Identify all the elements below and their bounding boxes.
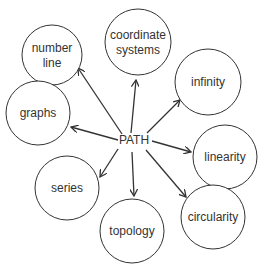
node-topology: topology	[100, 199, 164, 263]
arrow-to-series	[100, 149, 118, 177]
node-label: infinity	[191, 75, 225, 89]
node-label: linearity	[204, 150, 245, 164]
node-label: series	[51, 181, 83, 195]
arrow-to-number-line	[78, 68, 122, 134]
center-node-path: PATH	[119, 133, 149, 147]
node-label: line	[43, 56, 62, 70]
node-coordinate-systems: coordinatesystems	[105, 9, 171, 75]
node-linearity: linearity	[193, 125, 257, 189]
concept-diagram: numberlinecoordinatesystemsinfinitygraph…	[0, 0, 261, 272]
node-infinity: infinity	[175, 49, 241, 115]
arrow-to-circularity	[146, 150, 186, 197]
arrow-to-topology	[132, 152, 134, 196]
node-label: topology	[109, 224, 154, 238]
node-label: number	[32, 41, 73, 55]
node-label: graphs	[20, 106, 57, 120]
arrow-to-coordinate-systems	[131, 80, 136, 133]
node-label: coordinate	[110, 28, 166, 42]
node-series: series	[35, 156, 99, 220]
node-label: circularity	[188, 210, 239, 224]
node-graphs: graphs	[6, 81, 70, 145]
arrow-to-linearity	[152, 141, 191, 152]
arrow-to-graphs	[71, 127, 118, 140]
node-number-line: numberline	[22, 25, 82, 85]
arrow-to-infinity	[147, 100, 180, 133]
node-circularity: circularity	[181, 185, 245, 249]
node-label: systems	[116, 43, 160, 57]
